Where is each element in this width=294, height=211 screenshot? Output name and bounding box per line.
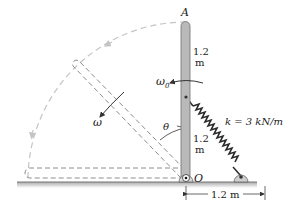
label-upper-length-value: 1.2	[193, 46, 209, 57]
label-base-dimension: 1.2 m	[211, 189, 240, 200]
bar-inclined-dashed	[73, 60, 190, 178]
label-omega: ω	[93, 116, 102, 129]
spring-attach-point	[184, 95, 187, 98]
label-lower-length-value: 1.2	[193, 133, 209, 144]
omega-rotation-arrow-icon	[100, 92, 124, 117]
label-o: O	[194, 172, 203, 185]
label-upper-length-unit: m	[195, 57, 205, 68]
arc-arrow-icon	[32, 130, 33, 136]
bar-vertical	[181, 22, 190, 181]
diagram-canvas: A 1.2 m ω0 k = 3 kN/m θ 1.2 m ω O 1.2 m	[0, 0, 294, 211]
label-a: A	[180, 6, 189, 19]
arc-path	[28, 22, 186, 178]
label-theta: θ	[163, 121, 169, 132]
label-omega0: ω0	[156, 75, 170, 90]
label-lower-length-unit: m	[195, 144, 205, 155]
bar-horizontal-dashed	[25, 168, 186, 178]
spring-hinge	[234, 175, 248, 182]
diagram-svg: A 1.2 m ω0 k = 3 kN/m θ 1.2 m ω O 1.2 m	[0, 0, 294, 211]
label-spring-constant: k = 3 kN/m	[225, 116, 283, 127]
ground	[17, 182, 257, 188]
